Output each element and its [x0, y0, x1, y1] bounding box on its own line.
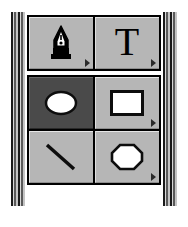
palette-drag-rail-right[interactable]	[163, 12, 177, 206]
tool-palette-window: T	[11, 12, 177, 206]
polygon-icon	[107, 138, 147, 176]
tool-row	[29, 77, 159, 129]
tool-button-polygon[interactable]	[93, 131, 159, 183]
tool-row	[29, 129, 159, 183]
tool-more-options-triangle[interactable]	[151, 59, 156, 67]
tool-button-rectangle[interactable]	[93, 77, 159, 129]
tool-button-text[interactable]: T	[93, 17, 159, 69]
pen-nib-icon	[41, 24, 81, 62]
tool-button-ellipse[interactable]	[29, 77, 93, 129]
tool-row: T	[29, 17, 159, 69]
text-t-icon: T	[107, 24, 147, 62]
ellipse-icon	[41, 84, 81, 122]
tool-button-line[interactable]	[29, 131, 93, 183]
tool-more-options-triangle[interactable]	[151, 119, 156, 127]
tool-palette-body: T	[25, 12, 163, 206]
tool-group-shapes	[27, 75, 161, 185]
tool-more-options-triangle[interactable]	[151, 173, 156, 181]
line-icon	[41, 138, 81, 176]
tool-more-options-triangle[interactable]	[85, 59, 90, 67]
text-tool-glyph: T	[115, 22, 139, 62]
rectangle-icon	[107, 84, 147, 122]
tool-button-pen[interactable]	[29, 17, 93, 69]
palette-drag-rail-left[interactable]	[11, 12, 25, 206]
screen: T	[0, 0, 188, 227]
tool-group-drawing: T	[27, 15, 161, 71]
